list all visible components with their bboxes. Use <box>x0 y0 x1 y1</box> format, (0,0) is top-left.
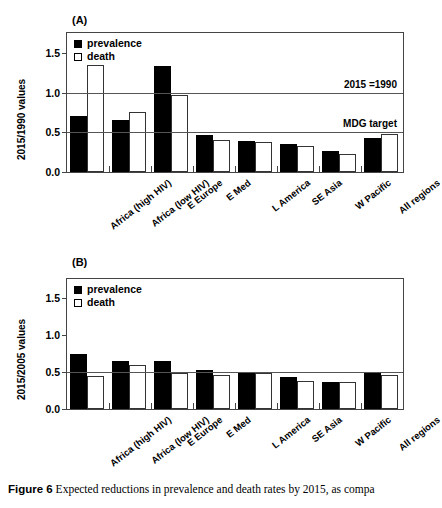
bar-death <box>381 375 398 409</box>
annotation-2015-equals-1990: 2015 =1990 <box>344 79 397 90</box>
x-axis-tick-label: E Med <box>224 414 253 440</box>
bar-prevalence <box>70 354 87 409</box>
bar-prevalence <box>238 372 255 409</box>
bar-death <box>213 140 230 172</box>
bar-prevalence <box>364 138 381 172</box>
x-axis-tick-label: L America <box>270 414 313 451</box>
y-tick-mark <box>62 335 67 336</box>
y-tick-label: 1.5 <box>45 292 60 304</box>
x-axis-tick-label: E Med <box>224 177 253 203</box>
y-tick-label: 1.5 <box>45 47 60 59</box>
x-axis-tick-label: SE Asia <box>309 414 343 444</box>
bar-group <box>67 33 109 172</box>
bar-group <box>277 279 319 409</box>
chart-panel-b: (B) 2015/2005 values prevalence death 0.… <box>0 250 412 465</box>
bar-death <box>255 373 272 409</box>
bar-death <box>297 381 314 409</box>
x-axis-tick-label: SE Asia <box>309 177 343 207</box>
bar-group <box>109 33 151 172</box>
x-tick-mark <box>319 403 320 409</box>
y-tick-mark <box>62 53 67 54</box>
x-axis-tick-label: W Pacific <box>353 177 393 212</box>
panel-b-y-axis-label: 2015/2005 values <box>16 319 27 400</box>
bar-group <box>193 279 235 409</box>
x-axis-tick-label: L America <box>270 177 313 214</box>
bar-death <box>87 65 104 172</box>
figure-caption-text: Expected reductions in prevalence and de… <box>56 483 375 495</box>
bar-group <box>193 33 235 172</box>
y-tick-mark <box>62 298 67 299</box>
bar-group <box>277 33 319 172</box>
panel-b-x-axis-labels: Africa (high HIV)Africa (low HIV)E Europ… <box>66 410 404 470</box>
bar-death <box>339 382 356 409</box>
x-axis-tick-label: All regions <box>396 177 441 216</box>
bar-prevalence <box>238 141 255 172</box>
bar-prevalence <box>280 377 297 409</box>
reference-line <box>67 372 403 373</box>
y-tick-label: 1.0 <box>45 329 60 341</box>
x-tick-mark <box>235 166 236 172</box>
chart-panel-a: (A) 2015/1990 values prevalence death 0.… <box>0 0 412 255</box>
panel-a-plot-area: prevalence death 0.00.51.01.52015 =1990M… <box>66 32 404 173</box>
bar-death <box>87 376 104 409</box>
x-tick-mark <box>277 166 278 172</box>
annotation-mdg-target: MDG target <box>343 118 397 129</box>
x-tick-mark <box>109 166 110 172</box>
panel-a-bars <box>67 33 403 172</box>
panel-b-bars <box>67 279 403 409</box>
bar-group <box>151 279 193 409</box>
y-tick-label: 0.0 <box>45 403 60 415</box>
y-tick-label: 0.5 <box>45 366 60 378</box>
x-axis-tick-label: W Pacific <box>353 414 393 449</box>
x-axis-tick-label: Africa (high HIV) <box>108 177 173 231</box>
x-tick-mark <box>151 166 152 172</box>
bar-prevalence <box>112 361 129 409</box>
y-tick-label: 0.0 <box>45 166 60 178</box>
panel-a-label: (A) <box>72 14 87 26</box>
bar-prevalence <box>154 361 171 409</box>
x-axis-tick-label: All regions <box>396 414 441 453</box>
bar-prevalence <box>112 120 129 172</box>
bar-group <box>319 33 361 172</box>
bar-prevalence <box>280 144 297 172</box>
panel-a-x-axis-labels: Africa (high HIV)Africa (low HIV)E Europ… <box>66 173 404 233</box>
figure-caption-label: Figure 6 <box>8 483 53 495</box>
y-tick-label: 0.5 <box>45 126 60 138</box>
panel-a-y-axis-label: 2015/1990 values <box>16 79 27 160</box>
bar-prevalence <box>70 116 87 172</box>
bar-group <box>361 279 403 409</box>
y-tick-label: 1.0 <box>45 87 60 99</box>
bar-prevalence <box>322 382 339 409</box>
bar-death <box>171 95 188 172</box>
bar-death <box>381 134 398 172</box>
bar-prevalence <box>364 373 381 409</box>
bar-death <box>339 154 356 172</box>
x-tick-mark <box>361 166 362 172</box>
bar-group <box>151 33 193 172</box>
reference-line <box>67 132 403 133</box>
panel-b-label: (B) <box>72 256 87 268</box>
figure-caption: Figure 6 Expected reductions in prevalen… <box>8 482 412 496</box>
x-tick-mark <box>151 403 152 409</box>
x-tick-mark <box>193 166 194 172</box>
bar-group <box>109 279 151 409</box>
x-tick-mark <box>235 403 236 409</box>
bar-group <box>361 33 403 172</box>
bar-death <box>297 146 314 172</box>
x-tick-mark <box>319 166 320 172</box>
x-tick-mark <box>277 403 278 409</box>
panel-b-plot-area: prevalence death 0.00.51.01.5 <box>66 278 404 410</box>
bar-prevalence <box>154 66 171 172</box>
x-tick-mark <box>361 403 362 409</box>
bar-prevalence <box>196 135 213 172</box>
x-axis-tick-label: Africa (high HIV) <box>108 414 173 468</box>
bar-death <box>255 142 272 172</box>
bar-group <box>235 279 277 409</box>
bar-death <box>171 373 188 409</box>
bar-death <box>213 375 230 409</box>
x-tick-mark <box>193 403 194 409</box>
bar-death <box>129 112 146 172</box>
bar-prevalence <box>196 370 213 409</box>
x-tick-mark <box>109 403 110 409</box>
